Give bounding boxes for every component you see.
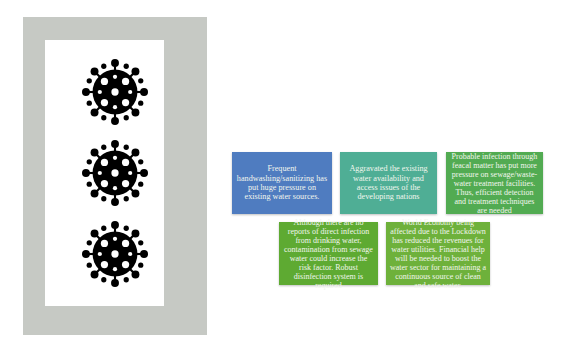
impact-box-economy: World Economy being affected due to the … xyxy=(386,222,490,285)
impact-box-text: Aggravated the existing water availabili… xyxy=(344,164,433,202)
impact-box-drinking-water: Although there are no reports of direct … xyxy=(279,222,378,285)
impact-box-text: Frequent handwashing/sanitizing has put … xyxy=(236,164,328,202)
impact-box-handwashing: Frequent handwashing/sanitizing has put … xyxy=(232,152,332,214)
virus-icon xyxy=(82,59,148,125)
impact-box-text: Although there are no reports of direct … xyxy=(283,218,374,290)
virus-icon xyxy=(82,221,148,287)
virus-icon xyxy=(82,140,148,206)
impact-box-faecal-infection: Probable infection through feacal matter… xyxy=(446,152,543,214)
impact-box-text: Probable infection through feacal matter… xyxy=(450,152,539,215)
impact-box-water-availability: Aggravated the existing water availabili… xyxy=(340,152,437,214)
impact-box-text: World Economy being affected due to the … xyxy=(390,218,486,290)
